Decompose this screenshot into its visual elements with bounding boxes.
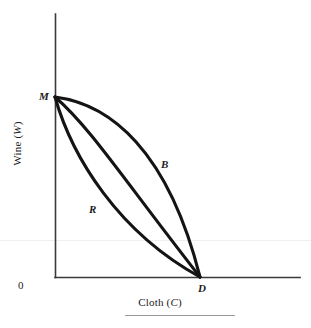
curve-label-b: B [161,159,168,170]
frontier-curve-middle [55,97,200,277]
y-axis-title: Wine (W) [12,114,23,174]
point-label-m: M [39,91,49,102]
curve-label-r: R [89,204,96,215]
y-axis-title-symbol: W [11,125,23,134]
x-axis-title-symbol: C [170,296,178,308]
ppf-figure: M D B R 0 Wine (W) Cloth (C) [0,0,311,328]
x-axis-title-suffix: ) [178,296,182,308]
y-axis-title-prefix: Wine ( [11,135,23,166]
y-axis-title-suffix: ) [11,121,23,125]
figure-canvas [0,0,311,328]
point-label-d: D [198,283,206,294]
origin-label: 0 [18,280,24,291]
x-axis-title-prefix: Cloth ( [138,296,170,308]
x-axis-title: Cloth (C) [105,297,215,308]
